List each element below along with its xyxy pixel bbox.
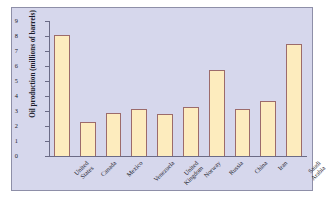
x-tick-label: Mexico <box>125 160 143 178</box>
bar <box>286 44 302 157</box>
bar-column <box>106 21 122 156</box>
x-tick-label: Russia <box>228 160 245 177</box>
bar <box>209 70 225 156</box>
bar-column <box>157 21 173 156</box>
x-tick-label: Canada <box>99 160 117 178</box>
bar-column <box>54 21 70 156</box>
x-tick-label: Venezuela <box>153 160 176 183</box>
bar-column <box>235 21 251 156</box>
bar <box>106 113 122 156</box>
bar <box>235 109 251 156</box>
bar-column <box>183 21 199 156</box>
chart-panel: Oil production (millions of barrels) 012… <box>11 7 313 191</box>
y-axis-label: Oil production (millions of barrels) <box>29 2 37 127</box>
bar-column <box>131 21 147 156</box>
bar <box>131 109 147 156</box>
x-axis-line <box>49 156 307 157</box>
bars-container <box>49 21 307 156</box>
bar-column <box>80 21 96 156</box>
y-tick-label: 1 <box>4 138 18 144</box>
bar-column <box>209 21 225 156</box>
y-tick-label: 0 <box>4 153 18 159</box>
bar <box>54 35 70 156</box>
x-tick-label: Iran <box>277 160 289 172</box>
x-tick-label: UnitedStates <box>73 160 95 182</box>
y-tick-label: 9 <box>4 18 18 24</box>
bar <box>183 107 199 157</box>
y-tick-label: 2 <box>4 123 18 129</box>
y-tick-label: 7 <box>4 48 18 54</box>
y-tick-label: 4 <box>4 93 18 99</box>
x-tick-label: SaudiArabia <box>305 160 327 182</box>
plot-area: Oil production (millions of barrels) 012… <box>12 8 312 190</box>
bar-column <box>260 21 276 156</box>
bar-column <box>286 21 302 156</box>
y-tick-label: 6 <box>4 63 18 69</box>
y-tick-label: 8 <box>4 33 18 39</box>
y-tick-label: 3 <box>4 108 18 114</box>
bar <box>80 122 96 156</box>
y-tick-label: 5 <box>4 78 18 84</box>
bar <box>157 114 173 156</box>
x-tick-label: UnitedKingdom <box>178 160 204 186</box>
y-tick-mark <box>45 156 49 157</box>
x-tick-label: China <box>253 160 268 175</box>
bar <box>260 101 276 156</box>
x-tick-label: Norway <box>203 160 222 179</box>
